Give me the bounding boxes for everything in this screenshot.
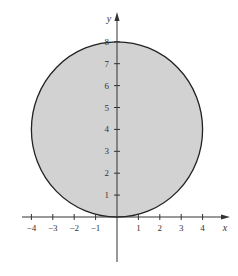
y-axis-label: y xyxy=(106,13,112,24)
y-tick-label: 7 xyxy=(105,59,110,69)
y-tick-label: 8 xyxy=(105,37,110,47)
y-tick-label: 1 xyxy=(105,190,110,200)
y-tick-label: 3 xyxy=(105,146,110,156)
y-tick-label: 5 xyxy=(105,103,110,113)
x-tick-label: −3 xyxy=(48,223,58,233)
y-tick-label: 2 xyxy=(105,168,110,178)
y-tick-label: 4 xyxy=(105,124,110,134)
x-tick-label: −1 xyxy=(91,223,101,233)
chart-plot: −4−3−2−1123412345678xy xyxy=(0,0,238,276)
x-tick-label: 1 xyxy=(136,223,141,233)
x-tick-label: −4 xyxy=(27,223,37,233)
x-tick-label: 4 xyxy=(200,223,205,233)
x-axis-arrow-icon xyxy=(221,215,230,220)
x-tick-label: 3 xyxy=(179,223,184,233)
x-tick-label: −2 xyxy=(69,223,79,233)
x-axis-label: x xyxy=(222,222,228,233)
y-tick-label: 6 xyxy=(105,81,110,91)
x-tick-label: 2 xyxy=(158,223,163,233)
y-axis-arrow-icon xyxy=(115,12,120,21)
